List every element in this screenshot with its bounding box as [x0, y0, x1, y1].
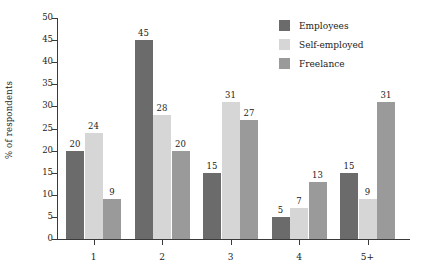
y-tick-label: 40 — [42, 56, 53, 66]
bar-value-label: 15 — [207, 161, 218, 171]
x-tick-label: 3 — [228, 252, 234, 262]
bar-value-label: 20 — [70, 139, 81, 149]
legend-swatch — [279, 20, 290, 31]
x-tick-mark — [231, 240, 232, 245]
bar: 9 — [103, 199, 121, 239]
bar: 15 — [203, 173, 221, 239]
x-tick-label: 4 — [296, 252, 302, 262]
bar: 31 — [222, 102, 240, 239]
bar-chart: % of respondents 05101520253035404550 12… — [0, 0, 422, 275]
y-tick-label: 35 — [42, 78, 53, 88]
legend-swatch — [279, 58, 290, 69]
y-axis-title-text: % of respondents — [4, 81, 14, 159]
bar: 20 — [172, 151, 190, 239]
y-axis-title: % of respondents — [2, 0, 16, 240]
x-tick-label: 2 — [159, 252, 165, 262]
legend: EmployeesSelf-employedFreelance — [279, 17, 364, 74]
bar-value-label: 20 — [175, 139, 186, 149]
y-tick-label: 0 — [48, 233, 53, 243]
bar: 7 — [290, 208, 308, 239]
bar: 5 — [272, 217, 290, 239]
legend-label: Freelance — [299, 59, 345, 69]
bar-value-label: 31 — [225, 90, 236, 100]
bar: 27 — [240, 120, 258, 239]
y-tick-label: 10 — [42, 189, 53, 199]
bar: 24 — [85, 133, 103, 239]
y-tick-label: 45 — [42, 34, 53, 44]
bar-value-label: 27 — [244, 108, 255, 118]
y-tick-label: 20 — [42, 145, 53, 155]
y-tick-label: 15 — [42, 167, 53, 177]
bar: 15 — [340, 173, 358, 239]
bar: 20 — [66, 151, 84, 239]
x-axis-line — [57, 239, 410, 240]
bar: 31 — [377, 102, 395, 239]
bar-value-label: 5 — [278, 205, 283, 215]
legend-item[interactable]: Employees — [279, 17, 364, 34]
bar: 45 — [135, 40, 153, 239]
legend-label: Employees — [299, 21, 349, 31]
x-tick-label: 1 — [91, 252, 97, 262]
bar: 28 — [153, 115, 171, 239]
bar-value-label: 7 — [296, 196, 301, 206]
bar: 13 — [309, 182, 327, 239]
y-tick-label: 25 — [42, 123, 53, 133]
y-axis-line — [57, 18, 58, 240]
bar-value-label: 45 — [138, 28, 149, 38]
y-tick-label: 5 — [48, 211, 53, 221]
legend-label: Self-employed — [299, 40, 364, 50]
legend-item[interactable]: Self-employed — [279, 36, 364, 53]
y-tick-label: 30 — [42, 100, 53, 110]
x-tick-mark — [94, 240, 95, 245]
bar-value-label: 13 — [312, 170, 323, 180]
bar-value-label: 9 — [109, 187, 114, 197]
bar-value-label: 31 — [381, 90, 392, 100]
x-tick-mark — [368, 240, 369, 245]
bar-value-label: 9 — [365, 187, 370, 197]
x-tick-mark — [162, 240, 163, 245]
bar-value-label: 15 — [344, 161, 355, 171]
legend-item[interactable]: Freelance — [279, 55, 364, 72]
y-tick-label: 50 — [42, 12, 53, 22]
bar-value-label: 28 — [157, 103, 168, 113]
legend-swatch — [279, 39, 290, 50]
bar: 9 — [359, 199, 377, 239]
bar-value-label: 24 — [88, 121, 99, 131]
x-tick-label: 5+ — [361, 252, 374, 262]
x-tick-mark — [299, 240, 300, 245]
